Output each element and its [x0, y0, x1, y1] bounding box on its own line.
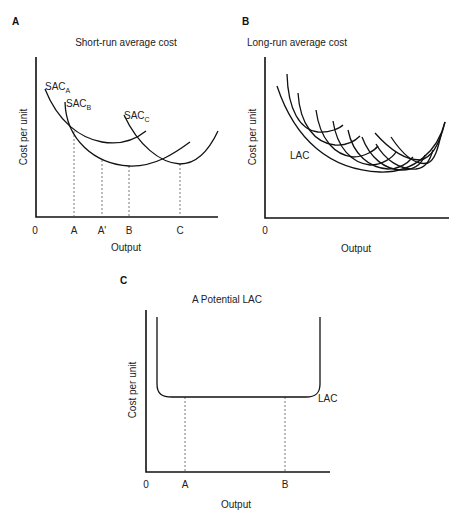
panel-a-tick-a-prime: A' [98, 225, 107, 236]
panel-b-title: Long-run average cost [247, 37, 347, 48]
panel-b: B Long-run average cost Cost per unit Ou… [242, 16, 449, 254]
panel-c-title: A Potential LAC [192, 294, 262, 305]
panel-a-tick-c: C [176, 225, 183, 236]
panel-c-ylabel: Cost per unit [127, 361, 138, 418]
panel-a-origin: 0 [32, 225, 38, 236]
sac-a-label: SACA [45, 81, 71, 94]
cost-curves-figure: A Short-run average cost Cost per unit O… [0, 0, 463, 524]
panel-b-xlabel: Output [341, 243, 371, 254]
panel-a-letter: A [12, 16, 19, 27]
panel-c-origin: 0 [143, 479, 149, 490]
sac-c-label: SACC [124, 110, 150, 123]
potential-lac-curve [157, 317, 320, 397]
panel-c-tick-a: A [182, 479, 189, 490]
panel-c-letter: C [120, 275, 127, 286]
panel-b-axes [265, 57, 449, 218]
lac-label: LAC [290, 150, 309, 161]
panel-c-xlabel: Output [221, 499, 251, 510]
panel-c-axes [146, 310, 330, 472]
panel-c: C A Potential LAC Cost per unit Output 0… [120, 275, 337, 510]
panel-b-origin: 0 [262, 225, 268, 236]
sac-family [287, 74, 445, 170]
panel-b-letter: B [242, 16, 249, 27]
panel-a-title: Short-run average cost [75, 37, 177, 48]
panel-a-ylabel: Cost per unit [18, 108, 29, 165]
sac-b-label: SACB [66, 98, 92, 111]
panel-c-tick-b: B [282, 479, 289, 490]
panel-a-xlabel: Output [111, 242, 141, 253]
panel-a-tick-b: B [126, 225, 133, 236]
panel-a-tick-a: A [71, 225, 78, 236]
panel-a: A Short-run average cost Cost per unit O… [12, 16, 218, 253]
panel-c-lac-label: LAC [318, 393, 337, 404]
panel-b-ylabel: Cost per unit [247, 108, 258, 165]
sac-c-curve [124, 115, 218, 164]
